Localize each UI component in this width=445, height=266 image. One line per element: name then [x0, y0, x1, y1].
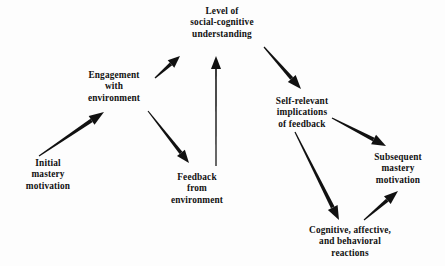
node-label-line: Engagement — [88, 70, 140, 81]
node-level-of-social-cognitive-understanding: Level ofsocial-cognitiveunderstanding — [190, 6, 253, 40]
arrow-self-relevant-to-cognitive — [294, 132, 339, 220]
arrow-head — [211, 56, 221, 69]
node-label-line: understanding — [190, 29, 253, 40]
node-cognitive-affective-and-behavioral-reactions: Cognitive, affective,and behavioralreact… — [309, 225, 391, 259]
arrow-shaft — [148, 111, 183, 154]
arrow-shaft — [155, 63, 173, 79]
arrow-initial-mastery-to-engagement — [39, 112, 104, 156]
arrow-shaft — [364, 199, 389, 221]
arrow-level-to-self-relevant — [264, 47, 301, 89]
node-label-line: Subsequent — [374, 152, 422, 163]
arrow-shaft — [294, 132, 334, 209]
node-label-line: Initial — [26, 158, 70, 169]
node-label-line: with — [88, 81, 140, 92]
arrow-head — [328, 205, 339, 220]
arrow-engagement-to-feedback — [148, 111, 189, 163]
arrow-cognitive-to-subsequent — [364, 191, 398, 220]
node-engagement-with-environment: Engagementwithenvironment — [88, 70, 140, 104]
node-self-relevant-implications-of-feedback: Self-relevantimplicationsof feedback — [276, 96, 328, 130]
arrow-shaft — [215, 69, 217, 166]
node-label-line: Feedback — [171, 172, 223, 183]
node-subsequent-mastery-motivation: Subsequentmasterymotivation — [374, 152, 422, 186]
node-label-line: social-cognitive — [190, 17, 253, 28]
arrow-shaft — [332, 117, 375, 141]
node-label-line: mastery — [26, 169, 70, 180]
node-label-line: from — [171, 183, 223, 194]
node-label-line: motivation — [374, 175, 422, 186]
node-label-line: implications — [276, 107, 328, 118]
node-label-line: environment — [171, 195, 223, 206]
arrow-feedback-to-level — [211, 56, 221, 166]
arrow-shaft — [39, 119, 93, 157]
node-initial-mastery-motivation: Initialmasterymotivation — [26, 158, 70, 192]
node-label-line: of feedback — [276, 119, 328, 130]
node-label-line: Self-relevant — [276, 96, 328, 107]
arrow-self-relevant-to-subsequent — [332, 117, 386, 146]
arrow-shaft — [264, 47, 294, 80]
arrow-head — [371, 135, 386, 146]
node-feedback-from-environment: Feedbackfromenvironment — [171, 172, 223, 206]
node-label-line: mastery — [374, 163, 422, 174]
node-label-line: and behavioral — [309, 236, 391, 247]
node-label-line: reactions — [309, 248, 391, 259]
node-label-line: environment — [88, 93, 140, 104]
flow-diagram: Level ofsocial-cognitiveunderstandingEng… — [0, 0, 445, 266]
arrow-engagement-to-level — [155, 56, 180, 78]
node-label-line: Level of — [190, 6, 253, 17]
node-label-line: Cognitive, affective, — [309, 225, 391, 236]
node-label-line: motivation — [26, 181, 70, 192]
